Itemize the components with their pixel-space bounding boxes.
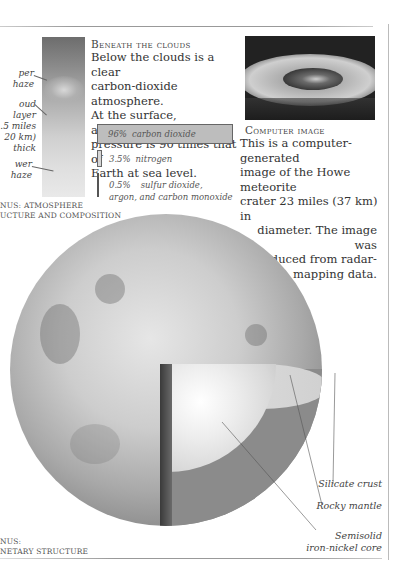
core-label: Semisolid iron-nickel core	[290, 530, 382, 554]
silicate-crust-label: Silicate crust	[300, 478, 382, 490]
planet-structure-caption: NUS: NETARY STRUCTURE	[0, 537, 88, 557]
rocky-mantle-label: Rocky mantle	[300, 500, 382, 512]
